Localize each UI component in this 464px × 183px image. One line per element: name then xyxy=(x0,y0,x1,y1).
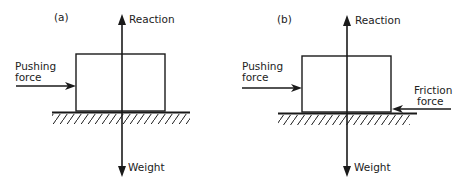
reaction-arrowhead-a xyxy=(118,14,126,25)
ground-hatch-b xyxy=(278,115,410,125)
weight-label-b: Weight xyxy=(354,162,391,173)
ground-hatch-a xyxy=(52,114,190,124)
diagram-a xyxy=(16,14,190,177)
panel-label-b: (b) xyxy=(277,14,292,25)
friction-label-b-line2: force xyxy=(417,96,443,107)
weight-arrowhead-a xyxy=(118,166,126,177)
pushing-label-a-line2: force xyxy=(15,72,41,83)
weight-label-a: Weight xyxy=(128,162,165,173)
reaction-label-b: Reaction xyxy=(355,15,401,26)
weight-arrowhead-b xyxy=(343,166,351,177)
pushing-label-b-line2: force xyxy=(242,72,268,83)
reaction-arrowhead-b xyxy=(343,15,351,26)
reaction-label-a: Reaction xyxy=(129,14,175,25)
panel-label-a: (a) xyxy=(54,12,69,23)
force-diagrams xyxy=(0,0,464,183)
block-a xyxy=(76,54,165,111)
